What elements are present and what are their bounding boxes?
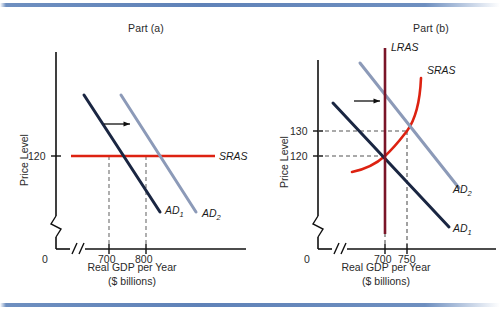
panel-a-y-axis-break bbox=[51, 216, 61, 237]
panel-b-ad1-label: AD1 bbox=[453, 222, 472, 237]
panel-a-x-axis-label: Real GDP per Year ($ billions) bbox=[52, 261, 212, 288]
panel-b-x-axis-label: Real GDP per Year ($ billions) bbox=[306, 261, 466, 288]
panel-b-ad1-curve bbox=[333, 103, 449, 227]
panel-a-x-axis-label-line2: ($ billions) bbox=[52, 275, 212, 289]
panel-a-ad2-label: AD2 bbox=[202, 207, 221, 222]
panel-b-shift-arrow-head bbox=[374, 98, 381, 103]
panel-a-ad2-label-sub: 2 bbox=[217, 213, 221, 222]
panel-b-ad2-label-main: AD bbox=[453, 183, 468, 195]
panel-b-lras-label: LRAS bbox=[391, 41, 418, 53]
panel-part-a: Part (a) Price Level bbox=[0, 0, 250, 300]
panel-a-x-axis-break bbox=[72, 243, 84, 254]
bottom-divider-rule bbox=[0, 303, 500, 307]
panel-b-ad2-curve bbox=[360, 63, 459, 188]
panel-b-ad1-label-main: AD bbox=[453, 222, 468, 234]
panel-a-origin-label: 0 bbox=[42, 253, 48, 265]
panel-a-shift-arrow-head bbox=[124, 121, 131, 126]
panel-b-x-axis-label-line2: ($ billions) bbox=[306, 275, 466, 289]
panel-a-x-axis-label-line1: Real GDP per Year bbox=[52, 261, 212, 275]
panel-a-ad1-label: AD1 bbox=[165, 204, 184, 219]
panel-b-ytick-120-label: 120 bbox=[290, 150, 308, 162]
panel-b-y-axis-break bbox=[313, 216, 323, 237]
panel-a-ad1-label-sub: 1 bbox=[180, 210, 184, 219]
panel-b-ad2-label-sub: 2 bbox=[468, 189, 472, 198]
panel-b-x-axis-break bbox=[334, 243, 346, 254]
panel-a-ytick-120-label: 120 bbox=[28, 150, 46, 162]
panel-part-b: Part (b) Price Level bbox=[250, 0, 500, 300]
panel-a-sras-label: SRAS bbox=[219, 150, 248, 162]
figure-container: Part (a) Price Level bbox=[0, 0, 500, 314]
panel-b-sras-label: SRAS bbox=[427, 64, 456, 76]
panel-a-ad1-curve bbox=[84, 95, 160, 212]
panel-a-ad2-label-main: AD bbox=[202, 207, 217, 219]
panel-b-ad1-label-sub: 1 bbox=[468, 228, 472, 237]
panel-b-x-axis-label-line1: Real GDP per Year bbox=[306, 261, 466, 275]
panel-b-ad2-label: AD2 bbox=[453, 183, 472, 198]
panel-a-ad2-curve bbox=[121, 95, 196, 212]
panel-b-ytick-130-label: 130 bbox=[290, 125, 308, 137]
panel-a-ad1-label-main: AD bbox=[165, 204, 180, 216]
